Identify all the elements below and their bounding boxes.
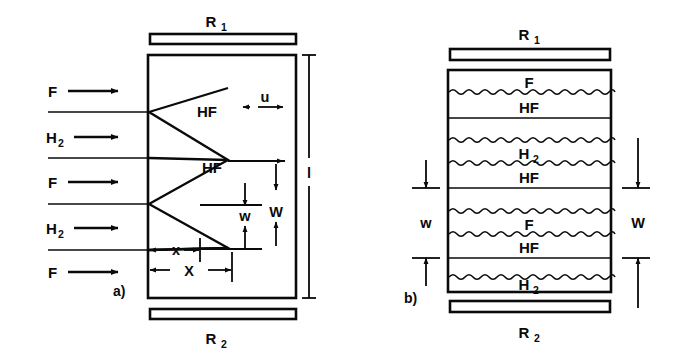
panel-b-layer-label-7: HF	[519, 239, 539, 256]
panel-a-dim-l-label: l	[307, 165, 311, 181]
panel-b-layer-sub-9: 2	[533, 284, 539, 296]
panel-a-mirror-top-sub: 1	[221, 21, 227, 33]
panel-a-reaction-label-1: HF	[202, 159, 222, 176]
panel-b-key: b)	[404, 290, 417, 306]
diagram-canvas: R 1 R 2 F H 2 F H 2 F HF HF u w W x X l …	[0, 0, 682, 356]
panel-a-mirror-top-label: R	[206, 13, 217, 30]
panel-a-mirror-bottom-label: R	[206, 330, 217, 347]
panel-b-layer-label-1: HF	[519, 99, 539, 116]
panel-a-dim-w-label: w	[238, 208, 251, 224]
panel-b-layer-label-4: HF	[519, 169, 539, 186]
panel-a-inlet-label-2: F	[48, 174, 57, 191]
panel-b-layer-sub-3: 2	[533, 153, 539, 165]
panel-b-layer-label-9: H	[519, 276, 530, 293]
panel-a-mirror-bottom-sub: 2	[221, 338, 227, 350]
panel-a-inlet-label-0: F	[48, 83, 57, 100]
figure-root: R 1 R 2 F H 2 F H 2 F HF HF u w W x X l …	[0, 0, 682, 356]
panel-a-dim-W-label: W	[269, 204, 283, 220]
panel-a-mirror-bottom	[150, 309, 296, 319]
panel-a-inlet-label-3: H	[46, 220, 57, 237]
panel-b-layer-label-3: H	[519, 145, 530, 162]
panel-a-mirror-top	[150, 34, 296, 44]
panel-b-mirror-bottom	[450, 301, 610, 312]
panel-b-dim-W-label: W	[631, 215, 645, 231]
panel-a-inlet-arrows	[68, 91, 118, 272]
panel-b-layer-label-0: F	[524, 74, 533, 91]
panel-a-inlet-label-4: F	[48, 264, 57, 281]
panel-b-mirror-bottom-sub: 2	[534, 332, 540, 344]
panel-a-key: a)	[113, 283, 125, 299]
panel-a-dim-x-label: x	[172, 242, 180, 258]
panel-a-inlet-label-1: H	[46, 129, 57, 146]
panel-a-reaction-label-0: HF	[197, 103, 217, 120]
panel-a-velocity-label: u	[261, 89, 270, 105]
panel-b-mirror-bottom-label: R	[519, 324, 530, 341]
panel-b-mirror-top	[450, 49, 610, 60]
panel-a	[48, 34, 316, 319]
panel-b-mirror-top-sub: 1	[534, 34, 540, 46]
panel-a-dim-X-label: X	[184, 263, 194, 279]
panel-a-inlet-sub-3: 2	[58, 228, 64, 240]
panel-b-layer-label-6: F	[524, 216, 533, 233]
panel-b-mirror-top-label: R	[519, 26, 530, 43]
panel-b-dim-w-label: w	[419, 215, 432, 231]
panel-a-inlet-sub-1: 2	[58, 137, 64, 149]
panel-a-cavity-box	[148, 55, 296, 298]
